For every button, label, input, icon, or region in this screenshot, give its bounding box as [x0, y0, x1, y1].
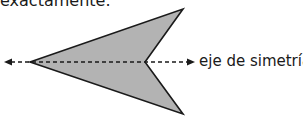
symmetry-axis-label: eje de simetría — [199, 51, 303, 71]
left-arrow-icon — [4, 59, 12, 66]
right-arrow-icon — [187, 59, 195, 66]
